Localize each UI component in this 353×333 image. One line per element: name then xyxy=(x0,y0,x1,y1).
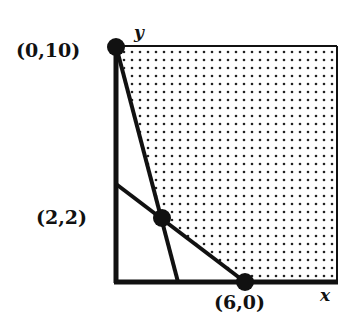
label-point-6-0: (6,0) xyxy=(214,291,265,313)
x-axis-label: x xyxy=(319,285,331,305)
feasible-region-diagram: (0,10) (2,2) (6,0) y x xyxy=(0,0,353,333)
label-point-2-2: (2,2) xyxy=(36,206,87,228)
label-point-0-10: (0,10) xyxy=(16,39,80,61)
y-axis-label: y xyxy=(133,22,145,42)
feasible-region xyxy=(118,46,337,282)
vertex-point-0-10 xyxy=(107,38,125,56)
vertex-point-2-2 xyxy=(153,209,171,227)
vertex-point-6-0 xyxy=(236,273,254,291)
